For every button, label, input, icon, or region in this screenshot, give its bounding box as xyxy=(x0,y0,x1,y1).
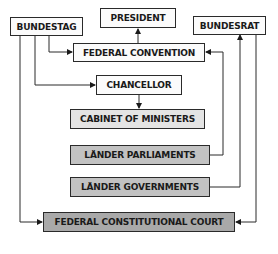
node-label: CABINET OF MINISTERS xyxy=(80,114,195,124)
node-label: FEDERAL CONVENTION xyxy=(83,48,195,58)
node-lander-governments: LÄNDER GOVERNMENTS xyxy=(70,177,210,197)
node-label: LÄNDER GOVERNMENTS xyxy=(81,182,199,192)
node-chancellor: CHANCELLOR xyxy=(96,75,182,95)
node-label: FEDERAL CONSTITUTIONAL COURT xyxy=(54,217,223,227)
node-bundestag: BUNDESTAG xyxy=(10,17,83,36)
node-label: BUNDESRAT xyxy=(200,21,259,31)
node-president: PRESIDENT xyxy=(100,8,176,28)
node-federal-constitutional-court: FEDERAL CONSTITUTIONAL COURT xyxy=(43,212,235,232)
node-cabinet-of-ministers: CABINET OF MINISTERS xyxy=(70,109,205,129)
node-federal-convention: FEDERAL CONVENTION xyxy=(73,43,205,62)
node-bundesrat: BUNDESRAT xyxy=(193,16,266,35)
node-label: CHANCELLOR xyxy=(106,80,171,90)
node-label: BUNDESTAG xyxy=(17,22,77,32)
node-label: LÄNDER PARLIAMENTS xyxy=(84,150,195,160)
node-label: PRESIDENT xyxy=(111,13,166,23)
node-lander-parliaments: LÄNDER PARLIAMENTS xyxy=(70,145,210,165)
